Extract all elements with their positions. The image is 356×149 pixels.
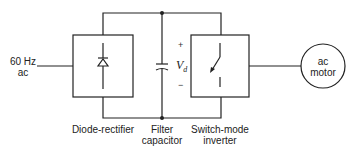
junction-bottom: [160, 116, 164, 120]
vd-label: Vd: [176, 60, 187, 75]
inverter-label-line2: inverter: [186, 135, 254, 146]
capacitor-label-line1: Filter: [136, 124, 188, 135]
motor-label-line1: ac: [303, 56, 343, 67]
rectifier-label: Diode-rectifier: [66, 124, 140, 135]
switch-blade: [212, 57, 220, 70]
inverter-label-line1: Switch-mode: [186, 124, 254, 135]
motor-label-line2: motor: [303, 67, 343, 78]
input-type: ac: [8, 67, 38, 78]
junction-top: [160, 11, 164, 15]
diode-icon: [98, 59, 108, 66]
vd-subscript: d: [183, 65, 187, 74]
motor-label: ac motor: [303, 56, 343, 78]
switch-arrow-icon: [210, 67, 215, 73]
inverter-label: Switch-mode inverter: [186, 124, 254, 146]
input-freq: 60 Hz: [8, 56, 38, 67]
capacitor-label: Filter capacitor: [136, 124, 188, 146]
input-label: 60 Hz ac: [8, 56, 38, 78]
capacitor-label-line2: capacitor: [136, 135, 188, 146]
plus-sign: +: [178, 40, 183, 50]
minus-sign: −: [178, 80, 183, 90]
